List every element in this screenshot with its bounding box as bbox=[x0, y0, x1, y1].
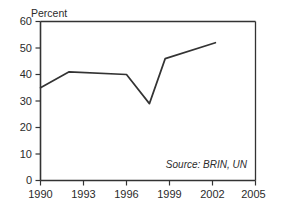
x-tick-label: 1999 bbox=[157, 188, 181, 200]
x-tick-label: 1993 bbox=[71, 188, 95, 200]
y-tick-label: 10 bbox=[20, 148, 32, 160]
x-tick-label: 2002 bbox=[200, 188, 224, 200]
y-tick-label: 0 bbox=[26, 174, 32, 186]
x-tick-label: 2005 bbox=[241, 188, 265, 200]
chart-figure: Percent 0 10 20 30 40 50 60 bbox=[0, 0, 301, 207]
y-axis-title: Percent bbox=[31, 7, 67, 19]
y-tick-label: 50 bbox=[20, 42, 32, 54]
y-tick-label: 20 bbox=[20, 121, 32, 133]
source-note: Source: BRIN, UN bbox=[166, 159, 248, 170]
x-tick-label: 1996 bbox=[114, 188, 138, 200]
y-tick-label: 60 bbox=[20, 15, 32, 27]
line-chart: Percent 0 10 20 30 40 50 60 bbox=[0, 0, 301, 207]
x-tick-label: 1990 bbox=[28, 188, 52, 200]
y-tick-label: 30 bbox=[20, 95, 32, 107]
y-tick-label: 40 bbox=[20, 68, 32, 80]
